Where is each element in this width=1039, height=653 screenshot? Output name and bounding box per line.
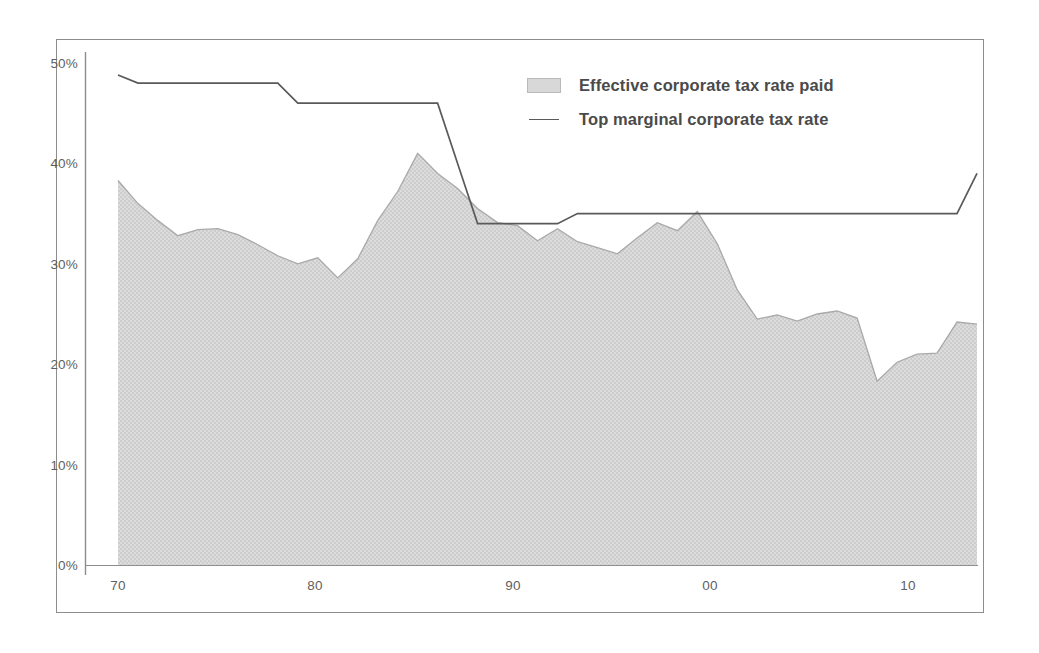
legend-label-top-marginal-rate: Top marginal corporate tax rate [579, 110, 828, 129]
y-tick-10: 10% [32, 458, 78, 473]
area-swatch-icon [527, 78, 561, 93]
line-swatch-icon [527, 112, 561, 127]
area-series-effective-rate [118, 153, 977, 565]
x-tick-80: 80 [290, 578, 340, 593]
y-tick-0: 0% [32, 558, 78, 573]
y-tick-50: 50% [32, 56, 78, 71]
y-tick-20: 20% [32, 357, 78, 372]
chart-container: 50% 40% 30% 20% 10% 0% 70 80 90 00 10 Ef… [0, 0, 1039, 653]
y-tick-40: 40% [32, 156, 78, 171]
x-tick-70: 70 [93, 578, 143, 593]
x-tick-90: 90 [488, 578, 538, 593]
legend-item-effective-rate: Effective corporate tax rate paid [527, 68, 947, 102]
y-tick-30: 30% [32, 257, 78, 272]
x-tick-10: 10 [883, 578, 933, 593]
legend-label-effective-rate: Effective corporate tax rate paid [579, 76, 834, 95]
legend-item-top-marginal-rate: Top marginal corporate tax rate [527, 102, 947, 136]
chart-legend: Effective corporate tax rate paid Top ma… [527, 68, 947, 136]
x-tick-00: 00 [685, 578, 735, 593]
